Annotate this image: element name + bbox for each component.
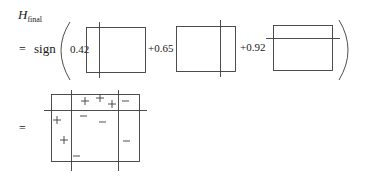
final-classifier-box [52, 95, 140, 162]
weak-classifier-1 [87, 22, 146, 78]
left-parenthesis [61, 22, 70, 80]
classifier-2-box [177, 27, 236, 72]
classifier-1-box [87, 28, 146, 73]
plus-mark [60, 136, 68, 144]
classifier-3-box [274, 26, 333, 71]
plus-mark [81, 97, 89, 105]
plus-mark [96, 94, 104, 102]
weak-classifier-2 [177, 20, 236, 77]
weak-classifier-3 [266, 26, 340, 71]
diagram-canvas [0, 0, 372, 182]
right-parenthesis [339, 20, 348, 80]
plus-mark [53, 116, 61, 124]
plus-mark [108, 100, 116, 108]
final-classifier [44, 90, 147, 171]
